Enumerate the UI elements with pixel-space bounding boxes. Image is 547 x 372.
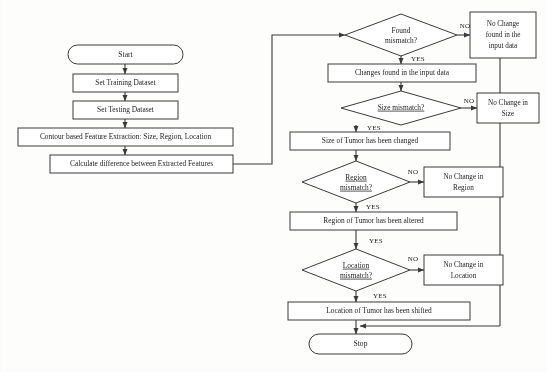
node-calculate-difference-label: Calculate difference between Extracted F…: [70, 159, 213, 168]
node-no-change-input-data-line1: No Change: [487, 20, 520, 28]
flowchart-svg: Start Set Training Dataset Set Testing D…: [0, 0, 547, 372]
edge-label-location-yes: YES: [373, 292, 387, 300]
node-no-change-input-data[interactable]: No Change found in the input data: [470, 12, 536, 58]
edge-label-found-yes: YES: [411, 55, 425, 63]
node-changes-found[interactable]: Changes found in the input data: [328, 64, 476, 82]
node-region-mismatch-line2: mismatch?: [340, 183, 372, 192]
node-set-testing-dataset[interactable]: Set Testing Dataset: [73, 101, 178, 119]
node-stop-label: Stop: [354, 339, 368, 348]
node-feature-extraction-label: Contour based Feature Extraction: Size, …: [40, 132, 211, 141]
flowchart-canvas: Start Set Training Dataset Set Testing D…: [0, 0, 547, 372]
node-size-changed-label: Size of Tumor has been changed: [322, 136, 419, 145]
node-set-training-dataset[interactable]: Set Training Dataset: [73, 74, 178, 92]
edge-label-found-no: NO: [460, 22, 471, 30]
node-no-change-size-line1: No Change in: [488, 99, 528, 107]
node-no-change-size-line2: Size: [502, 110, 514, 118]
node-region-altered-label: Region of Tumor has been altered: [323, 216, 424, 225]
node-location-shifted[interactable]: Location of Tumor has been shifted: [288, 302, 470, 320]
node-calculate-difference[interactable]: Calculate difference between Extracted F…: [50, 155, 233, 173]
node-region-mismatch-line1: Region: [345, 173, 367, 182]
node-start[interactable]: Start: [68, 45, 183, 64]
node-no-change-region[interactable]: No Change in Region: [424, 167, 503, 197]
node-location-shifted-label: Location of Tumor has been shifted: [326, 306, 432, 315]
node-size-changed[interactable]: Size of Tumor has been changed: [290, 132, 450, 150]
node-location-mismatch[interactable]: Location mismatch?: [302, 249, 410, 291]
node-no-change-location[interactable]: No Change in Location: [424, 255, 503, 285]
edge-label-size-no: NO: [464, 97, 475, 105]
node-no-change-region-line2: Region: [453, 184, 474, 192]
node-changes-found-label: Changes found in the input data: [355, 68, 450, 77]
node-region-mismatch[interactable]: Region mismatch?: [302, 161, 410, 203]
node-set-training-dataset-label: Set Training Dataset: [95, 78, 156, 87]
node-no-change-input-data-line3: input data: [489, 42, 518, 50]
edge-label-region-no: NO: [408, 168, 419, 176]
node-size-mismatch[interactable]: Size mismatch?: [341, 91, 461, 125]
node-no-change-size[interactable]: No Change in Size: [477, 93, 539, 123]
node-feature-extraction[interactable]: Contour based Feature Extraction: Size, …: [18, 128, 233, 146]
node-no-change-location-line1: No Change in: [444, 261, 484, 269]
node-set-testing-dataset-label: Set Testing Dataset: [97, 105, 155, 114]
edge-label-region-to-location-yes: YES: [369, 237, 383, 245]
node-found-mismatch[interactable]: Found mismatch?: [345, 14, 457, 56]
node-no-change-region-line1: No Change in: [444, 173, 484, 181]
edge-label-size-yes: YES: [367, 124, 381, 132]
node-found-mismatch-label-line2: mismatch?: [385, 36, 417, 45]
node-location-mismatch-line2: mismatch?: [340, 271, 372, 280]
node-no-change-location-line2: Location: [451, 272, 477, 280]
node-location-mismatch-line1: Location: [343, 261, 370, 270]
node-size-mismatch-label: Size mismatch?: [378, 103, 425, 112]
node-region-altered[interactable]: Region of Tumor has been altered: [290, 212, 457, 230]
node-stop[interactable]: Stop: [309, 334, 412, 354]
node-found-mismatch-label-line1: Found: [392, 26, 411, 35]
node-start-label: Start: [118, 50, 133, 59]
edge-label-location-no: NO: [408, 255, 419, 263]
edge-label-region-yes: YES: [366, 203, 380, 211]
node-no-change-input-data-line2: found in the: [486, 31, 521, 39]
